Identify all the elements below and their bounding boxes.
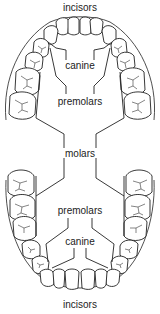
label-lower-canine: canine — [65, 237, 94, 247]
lower-right-molar-leader — [96, 158, 124, 196]
lower-incisors — [53, 269, 107, 289]
label-upper-incisors: incisors — [63, 3, 97, 13]
lower-left-molar-leader — [36, 158, 64, 196]
label-upper-canine: canine — [65, 61, 94, 71]
lower-right-premolar-leader — [92, 218, 114, 262]
upper-left-molars — [9, 68, 40, 119]
lower-left-canine — [40, 269, 54, 286]
upper-incisors — [56, 17, 103, 35]
label-lower-premolars: premolars — [58, 206, 102, 216]
lower-left-premolars — [22, 240, 49, 274]
label-upper-premolars: premolars — [58, 97, 102, 107]
lower-right-premolars — [111, 240, 138, 274]
teeth-diagram: incisors canine premolars molars premola… — [0, 0, 160, 314]
lower-right-canine-leader — [86, 248, 108, 268]
upper-left-premolars — [25, 38, 49, 71]
label-molars: molars — [65, 149, 95, 159]
lower-left-canine-leader — [52, 248, 74, 268]
upper-right-molar-leader — [96, 118, 124, 148]
upper-right-premolar-leader — [94, 48, 110, 94]
upper-arch — [5, 17, 154, 148]
upper-left-molar-leader — [36, 118, 64, 148]
upper-left-premolar-leader — [50, 48, 66, 94]
upper-right-molars — [120, 68, 151, 119]
lower-arch — [6, 158, 154, 289]
lower-right-canine — [106, 269, 120, 286]
upper-right-premolars — [111, 38, 135, 71]
label-lower-incisors: incisors — [63, 300, 97, 310]
